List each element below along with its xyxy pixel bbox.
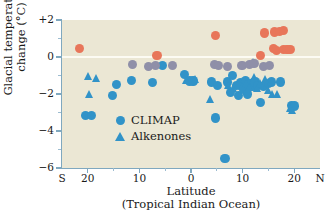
data-point-triangle <box>206 95 214 103</box>
legend-label-alkenones: Alkenones <box>131 129 191 143</box>
data-point-triangle <box>261 75 269 83</box>
legend: CLIMAP Alkenones <box>112 112 191 144</box>
x-tick-label: 20 <box>288 172 301 184</box>
x-axis-label-main: Latitude <box>167 184 216 198</box>
data-point-circle <box>168 61 177 70</box>
x-tick-label: N <box>315 172 324 184</box>
data-point-triangle <box>85 90 93 98</box>
x-tick-label: 0 <box>188 172 195 184</box>
data-point-circle <box>223 62 232 71</box>
x-minor-tick <box>216 168 217 171</box>
x-axis-label-sub: (Tropical Indian Ocean) <box>62 198 320 211</box>
data-point-circle <box>211 31 220 40</box>
plot-area <box>62 20 320 168</box>
x-tick-label: 20 <box>81 172 94 184</box>
data-point-triangle <box>84 72 92 80</box>
data-point-circle <box>75 44 84 53</box>
y-tick-label: −6 <box>0 161 54 173</box>
x-minor-tick <box>165 168 166 171</box>
y-tick-label: −4 <box>0 124 54 136</box>
data-point-triangle <box>288 106 296 114</box>
legend-item-climap: CLIMAP <box>112 112 191 128</box>
data-point-circle <box>108 91 117 100</box>
data-point-triangle <box>92 74 100 82</box>
data-point-circle <box>148 78 157 87</box>
x-minor-tick <box>113 168 114 171</box>
data-point-circle <box>211 113 220 122</box>
data-point-circle <box>276 77 285 86</box>
data-point-circle <box>279 26 288 35</box>
glacial-temperature-scatter-figure: Glacial temperature change (°C) +20−2−4−… <box>0 0 326 215</box>
data-point-circle <box>249 59 258 68</box>
data-point-triangle <box>245 83 253 91</box>
legend-label-climap: CLIMAP <box>131 113 180 127</box>
data-point-circle <box>285 45 294 54</box>
data-point-circle <box>260 28 269 37</box>
data-point-triangle <box>191 75 199 83</box>
data-point-circle <box>256 98 265 107</box>
data-point-circle <box>112 80 121 89</box>
y-tick-label: −2 <box>0 87 54 99</box>
data-point-circle <box>128 60 137 69</box>
circle-marker-icon <box>112 116 128 125</box>
triangle-marker-icon <box>112 132 128 141</box>
data-point-circle <box>152 51 161 60</box>
data-point-circle <box>151 61 160 70</box>
data-point-circle <box>213 81 222 90</box>
data-point-circle <box>265 61 274 70</box>
y-tick-label: +2 <box>0 13 54 25</box>
data-point-triangle <box>273 90 281 98</box>
data-point-circle <box>87 111 96 120</box>
zero-reference-line <box>62 56 320 58</box>
x-tick-label: S <box>58 172 65 184</box>
data-point-circle <box>220 154 229 163</box>
data-point-triangle <box>182 76 190 84</box>
data-point-circle <box>256 51 265 60</box>
x-tick-label: 10 <box>236 172 249 184</box>
y-tick-label: 0 <box>0 50 54 62</box>
legend-item-alkenones: Alkenones <box>112 128 191 144</box>
data-point-circle <box>127 76 136 85</box>
x-tick-label: 10 <box>133 172 146 184</box>
x-minor-tick <box>268 168 269 171</box>
x-axis-label: Latitude (Tropical Indian Ocean) <box>62 185 320 211</box>
